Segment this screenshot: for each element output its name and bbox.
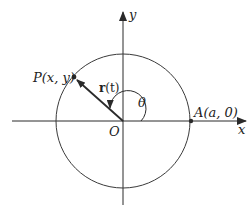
y-axis-label: y [128,7,137,22]
diagram-canvas: y x O P(x, y) A(a, 0) θ r(t) [0,0,252,213]
vector-label: r(t) [99,81,120,95]
point-p-label: P(x, y) [32,70,75,85]
x-axis-label: x [238,122,246,137]
angle-label: θ [138,95,146,110]
point-a [189,119,193,123]
vector-label-arg: (t) [105,81,119,95]
point-a-label: A(a, 0) [193,105,238,120]
origin-label: O [109,124,120,139]
